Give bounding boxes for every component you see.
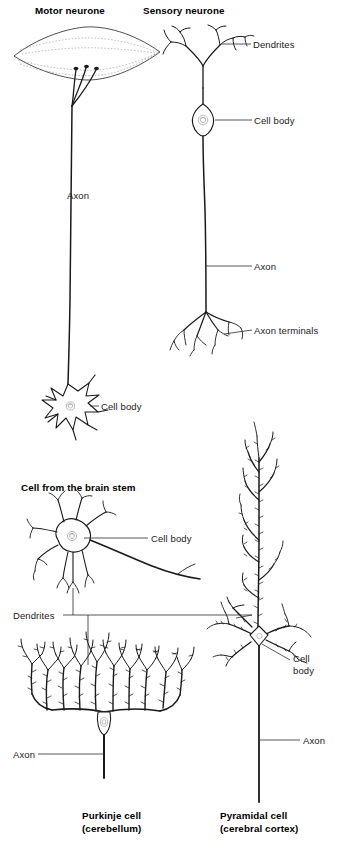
neurone-types-diagram: Motor neurone Sensory neurone Axon Cell … [0,0,337,847]
sensory-dendrites-label: Dendrites [253,39,295,51]
sensory-axon-terminals-label: Axon terminals [254,325,318,337]
pyramidal-apical-dendrite [239,422,283,630]
pyramidal-cell-group [207,422,311,802]
sensory-axon-terminals [170,312,243,356]
sensory-cell-body-soma [192,104,213,136]
motor-axon-path [68,106,72,384]
pyramidal-cell-name: Pyramidal cell [220,810,287,822]
pyramidal-cell-body-label-line1: Cell [293,653,310,665]
sensory-dendrites-tree [163,25,254,88]
motor-axon-terminal-branches [72,65,99,106]
pyramidal-cell-body-label-line2: body [293,665,314,677]
sensory-axon-label: Axon [254,261,276,273]
sensory-axon-path [203,136,206,312]
brainstem-cell-body-label: Cell body [151,533,192,545]
pyramidal-axon-label: Axon [303,735,325,747]
motor-axon-label: Axon [67,190,89,202]
purkinje-cell-name: Purkinje cell [82,810,141,822]
sensory-neurone-heading: Sensory neurone [143,5,225,17]
motor-end-plate-icon [14,27,160,80]
purkinje-cell-sub: (cerebellum) [82,823,141,835]
motor-neurone-heading: Motor neurone [35,5,105,17]
purkinje-axon-label: Axon [13,749,35,761]
diagram-canvas [0,0,337,847]
pyramidal-cell-body-leader [262,644,290,660]
sensory-cell-body-label: Cell body [254,115,295,127]
brainstem-cell-body-soma [56,519,91,553]
purkinje-cell-group [18,632,194,778]
brainstem-axon-path [90,540,200,579]
motor-cell-body-label: Cell body [101,401,142,413]
brain-stem-cell-heading: Cell from the brain stem [21,482,136,494]
pyramidal-cell-sub: (cerebral cortex) [220,823,298,835]
motor-cell-body-soma [42,383,99,430]
motor-neurone-group [14,27,160,440]
pyramidal-cell-body-soma [250,626,268,646]
shared-dendrites-label: Dendrites [13,610,55,622]
sensory-neurone-group [163,25,254,356]
purkinje-cell-body-soma [97,712,110,735]
